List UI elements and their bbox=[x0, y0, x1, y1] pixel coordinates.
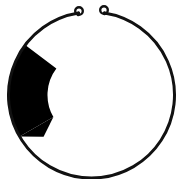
figure-canvas bbox=[0, 0, 183, 179]
ring-diagram-svg bbox=[0, 0, 183, 179]
